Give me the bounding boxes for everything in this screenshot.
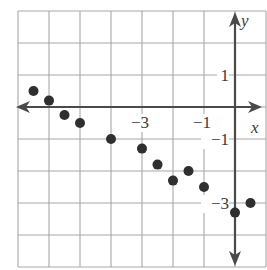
- y-tick-label: 1: [221, 66, 230, 85]
- data-point: [153, 160, 163, 170]
- data-point: [75, 118, 85, 128]
- data-point: [137, 144, 147, 154]
- y-tick-label: −1: [211, 130, 229, 149]
- y-tick-label: −3: [211, 194, 229, 213]
- x-tick-label: −3: [131, 113, 149, 132]
- y-axis-label: y: [239, 11, 249, 30]
- data-point: [199, 182, 209, 192]
- scatter-plot: −3−11−1−3 x y: [0, 0, 267, 270]
- data-point: [246, 198, 256, 208]
- data-point: [184, 166, 194, 176]
- data-point: [29, 86, 39, 96]
- x-tick-label: −1: [193, 113, 211, 132]
- data-point: [60, 110, 70, 120]
- data-point: [230, 208, 240, 218]
- data-point: [44, 96, 54, 106]
- data-point: [168, 176, 178, 186]
- data-point: [106, 134, 116, 144]
- x-axis-label: x: [250, 118, 259, 137]
